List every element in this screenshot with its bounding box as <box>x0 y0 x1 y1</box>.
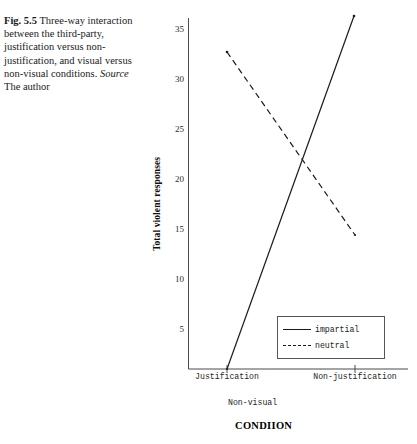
series-point-impartial-start <box>226 368 228 370</box>
x-axis-title: CONDIION <box>235 420 292 431</box>
x-tick-label-non-justification: Non-justification <box>295 372 415 381</box>
figure-caption: Fig. 5.5 Three-way interaction between t… <box>4 14 144 93</box>
figure-number: Fig. 5.5 <box>4 15 37 26</box>
x-tick-label-justification: Justification <box>177 372 277 381</box>
caption-source-value: The author <box>4 81 50 92</box>
legend-item-neutral: neutral <box>283 337 379 353</box>
series-point-impartial-end <box>353 15 356 18</box>
series-line-neutral <box>227 52 355 235</box>
legend-label-impartial: impartial <box>315 325 359 334</box>
x-group-label: Non-visual <box>228 398 277 407</box>
legend-label-neutral: neutral <box>315 341 349 350</box>
legend-swatch-dashed-line-icon <box>283 341 311 349</box>
legend-item-impartial: impartial <box>283 321 379 337</box>
series-point-neutral-start <box>226 51 229 54</box>
chart-legend: impartial neutral <box>277 316 385 359</box>
series-point-neutral-end <box>354 234 356 236</box>
caption-source-label: Source <box>100 68 129 79</box>
legend-swatch-solid-line-icon <box>283 325 311 333</box>
chart-figure: Total violent responses 35 30 25 20 15 1… <box>150 0 417 444</box>
